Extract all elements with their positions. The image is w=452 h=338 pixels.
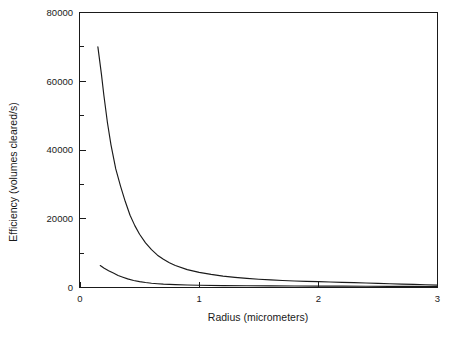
y-tick-label-40000: 40000 [47,144,73,155]
x-tick-label-0: 0 [77,293,82,304]
x-tick-label-2: 2 [316,293,321,304]
y-axis-title: Efficiency (volumes cleared/s) [7,102,19,241]
chart-figure: 020000400006000080000 0123 Radius (micro… [0,0,452,338]
x-tick-label-3: 3 [435,293,440,304]
y-tick-label-80000: 80000 [47,7,73,18]
x-axis-title: Radius (micrometers) [208,311,308,323]
x-tick-label-1: 1 [197,293,202,304]
y-tick-label-60000: 60000 [47,76,73,87]
y-tick-label-20000: 20000 [47,213,73,224]
efficiency-vs-radius-chart: 020000400006000080000 0123 Radius (micro… [0,0,452,338]
y-tick-label-0: 0 [68,282,73,293]
